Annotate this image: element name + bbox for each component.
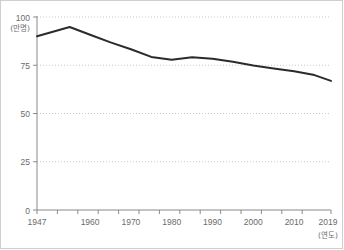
x-axis-unit-label: (연도)	[318, 231, 338, 240]
y-axis-labels: 100 75 50 25 0	[16, 13, 30, 216]
x-tick-label-2019: 2019	[319, 217, 338, 227]
x-tick-label-1947: 1947	[28, 217, 47, 227]
x-tick-label-1990: 1990	[203, 217, 222, 227]
y-tick-label-25: 25	[21, 157, 31, 167]
x-tick-label-2010: 2010	[285, 217, 304, 227]
line-chart: 100 75 50 25 0 (만명) 1947 1960 1970 1980 …	[0, 0, 344, 250]
y-axis-unit-label: (만명)	[10, 23, 30, 33]
x-axis-ticks	[37, 210, 331, 214]
x-tick-label-1960: 1960	[81, 217, 100, 227]
x-tick-label-1970: 1970	[121, 217, 140, 227]
y-tick-label-75: 75	[21, 61, 31, 71]
gridlines	[37, 17, 331, 162]
x-axis-labels: 1947 1960 1970 1980 1990 2000 2010 2019	[28, 217, 338, 227]
chart-svg: 100 75 50 25 0 (만명) 1947 1960 1970 1980 …	[0, 0, 344, 250]
x-tick-label-2000: 2000	[244, 217, 263, 227]
y-axis-ticks	[33, 17, 37, 210]
y-tick-label-0: 0	[25, 206, 30, 216]
x-tick-label-1980: 1980	[162, 217, 181, 227]
data-line-population	[37, 27, 331, 81]
y-tick-label-100: 100	[16, 13, 30, 23]
y-tick-label-50: 50	[21, 109, 31, 119]
